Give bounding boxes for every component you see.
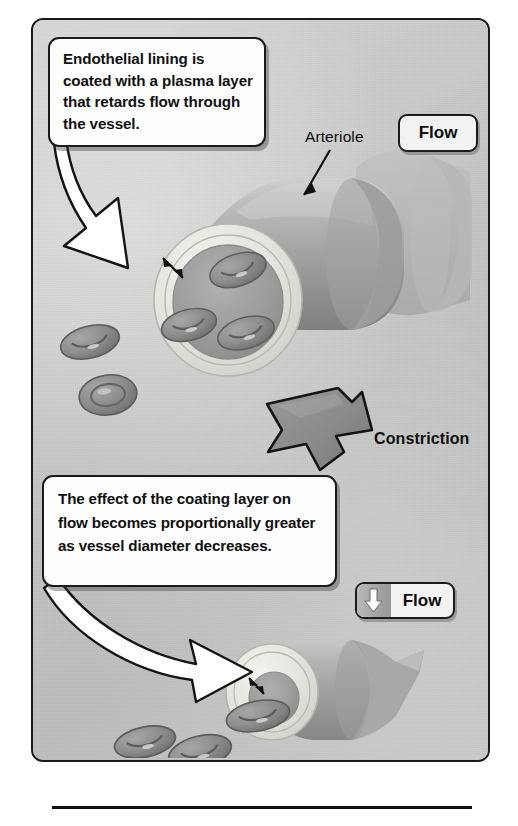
flow-chip-top-label: Flow [419, 123, 458, 143]
figure-root: Endothelial lining is coated with a plas… [0, 0, 518, 826]
arteriole-label: Arteriole [305, 128, 364, 146]
flow-chip-bottom: Flow [355, 582, 455, 619]
flow-chip-bottom-label: Flow [391, 591, 453, 611]
arrow-down-icon [357, 584, 391, 617]
callout-2-text: The effect of the coating layer on flow … [58, 487, 323, 558]
callout-box-endothelial-lining: Endothelial lining is coated with a plas… [48, 37, 266, 147]
flow-chip-top: Flow [398, 114, 478, 152]
callout-box-coating-effect: The effect of the coating layer on flow … [42, 475, 337, 587]
callout-1-text: Endothelial lining is coated with a plas… [63, 48, 253, 134]
constriction-label: Constriction [374, 430, 469, 448]
caption-divider-rule [52, 806, 472, 809]
